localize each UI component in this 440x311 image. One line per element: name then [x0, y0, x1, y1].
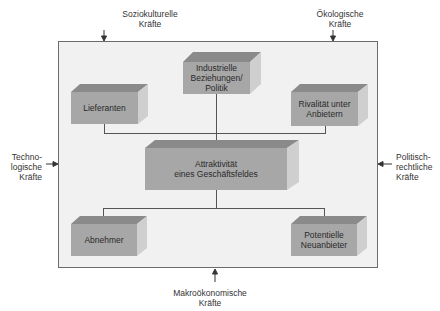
box-neuanbieter-label: Potentielle Neuanbieter [291, 224, 357, 256]
connector-center-down [216, 190, 217, 209]
box-attraktivitaet-label: Attraktivität eines Geschäftsfeldes [145, 148, 287, 190]
box-potentielle-neuanbieter: Potentielle Neuanbieter [291, 216, 367, 256]
box-abnehmer: Abnehmer [71, 216, 147, 256]
box-industrielle-label: Industrielle Beziehungen/ Politik [183, 62, 250, 94]
box-rivalitaet: Rivalität unter Anbietern [291, 84, 368, 126]
box-lieferanten: Lieferanten [71, 84, 148, 124]
box-rivalitaet-label: Rivalität unter Anbietern [291, 92, 358, 126]
connector-top-horizontal [104, 133, 326, 134]
box-industrielle-beziehungen: Industrielle Beziehungen/ Politik [183, 52, 261, 94]
box-abnehmer-label: Abnehmer [71, 224, 137, 256]
box-attraktivitaet: Attraktivität eines Geschäftsfeldes [145, 140, 299, 190]
connector-bottom-horizontal [103, 208, 325, 209]
box-lieferanten-label: Lieferanten [71, 92, 138, 124]
